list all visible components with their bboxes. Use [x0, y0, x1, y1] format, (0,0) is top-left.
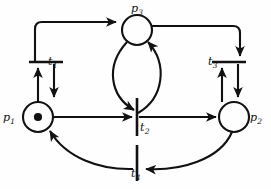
- place-label-p3-text: p: [131, 2, 138, 15]
- transition-label-t2-text: t: [140, 121, 144, 134]
- place-label-p1-text: p: [3, 111, 10, 124]
- arc-p3-to-t3: [152, 26, 240, 56]
- transition-label-t3-sub: 3: [213, 61, 218, 70]
- transition-label-t1-sub: 1: [53, 61, 58, 70]
- place-label-p2-sub: 2: [257, 117, 262, 126]
- transition-label-t3-text: t: [208, 55, 212, 68]
- petri-net-diagram: p1 p2 p3 t1 t2 t3 t4: [0, 0, 271, 189]
- transition-label-t2: t2: [140, 122, 149, 133]
- place-label-p3-sub: 3: [138, 8, 143, 17]
- place-label-p1-sub: 1: [10, 117, 15, 126]
- transition-label-t4: t4: [131, 168, 140, 179]
- place-p2: [219, 102, 249, 132]
- arc-p3-to-t2: [113, 42, 134, 110]
- transition-label-t1: t1: [48, 56, 57, 67]
- transition-label-t4-sub: 4: [136, 173, 141, 182]
- place-p3: [122, 15, 152, 45]
- arc-p2-to-t4: [146, 132, 232, 169]
- transition-label-t4-text: t: [131, 167, 135, 180]
- arc-t2-to-p3: [138, 42, 161, 113]
- transition-label-t3: t3: [208, 56, 217, 67]
- arc-t4-to-p1: [50, 131, 133, 169]
- place-label-p3: p3: [131, 3, 143, 14]
- place-label-p1: p1: [3, 112, 15, 123]
- petri-net-canvas: [0, 0, 271, 189]
- token-p1: [34, 113, 42, 121]
- transition-label-t1-text: t: [48, 55, 52, 68]
- transition-label-t2-sub: 2: [145, 127, 150, 136]
- place-label-p2: p2: [250, 112, 262, 123]
- place-label-p2-text: p: [250, 111, 257, 124]
